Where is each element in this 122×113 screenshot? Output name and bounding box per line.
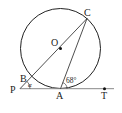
label-O: O [51, 37, 58, 48]
label-P: P [10, 84, 16, 95]
center-dot-O [59, 47, 62, 50]
label-B: B [20, 73, 27, 84]
geometry-diagram: O C B P A T α 68° [0, 0, 122, 113]
label-angle-68: 68° [66, 76, 77, 85]
label-alpha: α [28, 81, 32, 89]
secant-line-PC [20, 19, 87, 89]
label-C: C [84, 7, 91, 18]
label-A: A [56, 90, 64, 101]
label-T: T [101, 90, 107, 101]
